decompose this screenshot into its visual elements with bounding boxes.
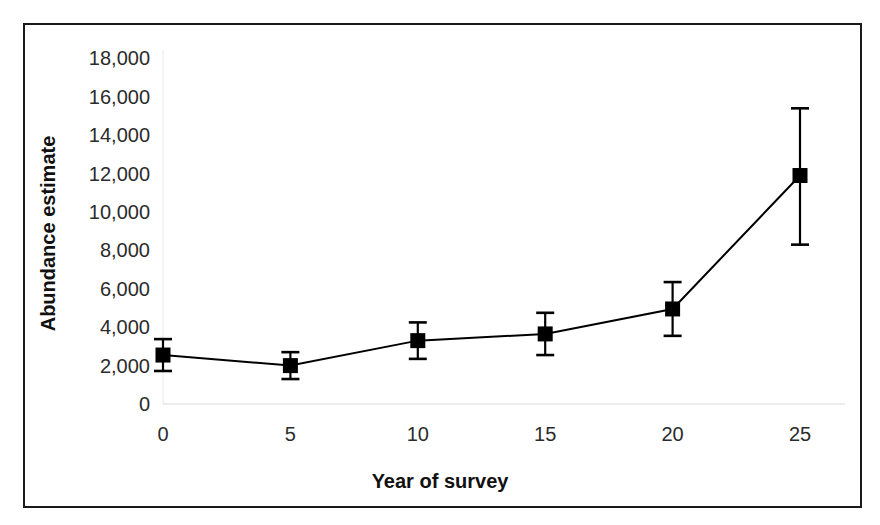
data-series-line <box>163 176 800 366</box>
y-tick-label: 10,000 <box>55 202 150 222</box>
x-axis-title: Year of survey <box>0 470 880 493</box>
data-point-marker <box>156 348 171 363</box>
y-tick-label: 6,000 <box>55 279 150 299</box>
y-tick-label: 8,000 <box>55 240 150 260</box>
x-tick-label: 5 <box>250 424 330 444</box>
y-tick-label: 16,000 <box>55 87 150 107</box>
data-point-marker <box>793 168 808 183</box>
axis-lines <box>163 50 845 404</box>
y-tick-label: 2,000 <box>55 356 150 376</box>
y-tick-label: 0 <box>55 394 150 414</box>
data-point-marker <box>283 358 298 373</box>
error-bars-group <box>154 108 809 379</box>
y-tick-label: 12,000 <box>55 164 150 184</box>
x-tick-label: 10 <box>378 424 458 444</box>
y-tick-label: 4,000 <box>55 317 150 337</box>
data-point-marker <box>538 326 553 341</box>
y-tick-label: 18,000 <box>55 48 150 68</box>
figure-container: 02,0004,0006,0008,00010,00012,00014,0001… <box>0 0 880 525</box>
data-point-marker <box>665 301 680 316</box>
y-axis-title: Abundance estimate <box>37 114 60 354</box>
series-polyline <box>163 176 800 366</box>
x-tick-label: 25 <box>760 424 840 444</box>
y-tick-label: 14,000 <box>55 125 150 145</box>
x-tick-label: 0 <box>123 424 203 444</box>
data-point-marker <box>410 333 425 348</box>
x-tick-label: 20 <box>633 424 713 444</box>
x-tick-label: 15 <box>505 424 585 444</box>
chart-plot-area <box>0 0 880 525</box>
